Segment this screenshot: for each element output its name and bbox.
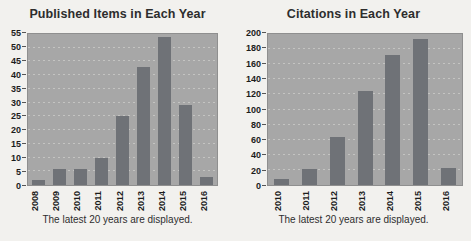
- y-tick-mark: [22, 102, 26, 103]
- y-tick-label: 30: [11, 98, 21, 107]
- bar-2012: [330, 137, 345, 185]
- x-tick-label: 2013: [358, 191, 367, 211]
- x-tick-label: 2008: [31, 191, 40, 211]
- x-tick-label: 2010: [274, 191, 283, 211]
- x-tick-label: 2009: [52, 191, 61, 211]
- y-tick-label: 45: [11, 56, 21, 65]
- x-tick-label: 2013: [137, 191, 146, 211]
- citations-chart: Citations in Each Year 02040608010012014…: [236, 0, 471, 241]
- bar-2010: [74, 169, 87, 185]
- y-tick-mark: [22, 60, 26, 61]
- published-items-footnote: The latest 20 years are displayed.: [0, 214, 235, 225]
- y-tick-label: 40: [251, 151, 261, 160]
- x-tick-label: 2010: [73, 191, 82, 211]
- y-tick-mark: [22, 88, 26, 89]
- citations-y-axis: 020406080100120140160180200: [236, 33, 267, 186]
- citations-chart-title: Citations in Each Year: [236, 7, 471, 21]
- gridline: [28, 88, 217, 89]
- gridline: [268, 48, 462, 49]
- y-tick-label: 5: [16, 168, 21, 177]
- gridline: [268, 63, 462, 64]
- x-tick-label: 2016: [442, 191, 451, 211]
- published-items-chart: Published Items in Each Year 05101520253…: [0, 0, 235, 241]
- bar-2015: [179, 105, 192, 185]
- bar-2009: [53, 169, 66, 185]
- y-tick-mark: [262, 32, 266, 33]
- y-tick-label: 140: [246, 74, 261, 83]
- y-tick-label: 15: [11, 140, 21, 149]
- bar-2011: [95, 158, 108, 185]
- y-tick-mark: [262, 47, 266, 48]
- x-tick-label: 2011: [302, 191, 311, 211]
- y-tick-label: 35: [11, 84, 21, 93]
- x-tick-label: 2014: [386, 191, 395, 211]
- y-tick-label: 80: [251, 120, 261, 129]
- y-tick-label: 120: [246, 90, 261, 99]
- published-items-plot-area: [27, 33, 218, 186]
- y-tick-mark: [262, 139, 266, 140]
- y-tick-label: 10: [11, 154, 21, 163]
- bar-2015: [413, 39, 428, 185]
- gridline: [28, 60, 217, 61]
- y-tick-mark: [262, 109, 266, 110]
- x-tick-label: 2015: [414, 191, 423, 211]
- gridline: [268, 78, 462, 79]
- y-tick-label: 0: [256, 182, 261, 191]
- y-tick-mark: [262, 78, 266, 79]
- x-tick-label: 2012: [116, 191, 125, 211]
- citations-plot-area: [267, 33, 463, 186]
- gridline: [28, 74, 217, 75]
- y-tick-mark: [262, 185, 266, 186]
- y-tick-label: 20: [11, 126, 21, 135]
- bar-2014: [385, 55, 400, 185]
- bar-2014: [158, 37, 171, 185]
- bar-2016: [200, 177, 213, 185]
- bar-2008: [32, 180, 45, 185]
- y-tick-mark: [22, 32, 26, 33]
- x-tick-label: 2012: [330, 191, 339, 211]
- x-tick-label: 2011: [94, 191, 103, 211]
- published-items-y-axis: 0510152025303540455055: [0, 33, 27, 186]
- y-tick-mark: [262, 63, 266, 64]
- bar-2016: [441, 168, 456, 185]
- bar-2010: [274, 179, 289, 185]
- y-tick-mark: [262, 154, 266, 155]
- y-tick-mark: [22, 171, 26, 172]
- y-tick-label: 0: [16, 182, 21, 191]
- citations-footnote: The latest 20 years are displayed.: [236, 214, 471, 225]
- y-tick-mark: [262, 124, 266, 125]
- y-tick-mark: [22, 129, 26, 130]
- y-tick-label: 180: [246, 44, 261, 53]
- x-tick-label: 2014: [158, 191, 167, 211]
- y-tick-label: 25: [11, 112, 21, 121]
- gridline: [28, 47, 217, 48]
- y-tick-mark: [22, 74, 26, 75]
- bar-2012: [116, 116, 129, 185]
- bar-2011: [302, 169, 317, 185]
- y-tick-label: 55: [11, 29, 21, 38]
- y-tick-mark: [262, 170, 266, 171]
- y-tick-mark: [22, 157, 26, 158]
- y-tick-label: 50: [11, 42, 21, 51]
- published-items-chart-title: Published Items in Each Year: [0, 7, 235, 21]
- gridline: [28, 102, 217, 103]
- y-tick-label: 20: [251, 166, 261, 175]
- bar-2013: [358, 91, 373, 185]
- y-tick-label: 200: [246, 29, 261, 38]
- x-tick-label: 2016: [200, 191, 209, 211]
- y-tick-mark: [22, 46, 26, 47]
- y-tick-mark: [22, 185, 26, 186]
- x-tick-label: 2015: [179, 191, 188, 211]
- y-tick-mark: [22, 143, 26, 144]
- y-tick-label: 160: [246, 59, 261, 68]
- y-tick-label: 60: [251, 136, 261, 145]
- y-tick-label: 40: [11, 70, 21, 79]
- bar-2013: [137, 67, 150, 185]
- y-tick-mark: [22, 115, 26, 116]
- y-tick-label: 100: [246, 105, 261, 114]
- citation-report-panel: Published Items in Each Year 05101520253…: [0, 0, 471, 241]
- y-tick-mark: [262, 93, 266, 94]
